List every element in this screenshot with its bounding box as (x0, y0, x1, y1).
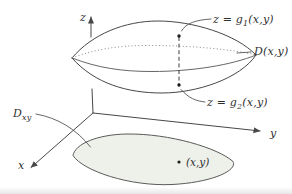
upper-surface-leader-line (182, 19, 212, 31)
lower-surface-label: z = g2(x,y) (206, 96, 268, 111)
lower-surface-point-dot (177, 83, 180, 86)
y-axis (93, 113, 260, 131)
xy-point-label: (x,y) (186, 156, 209, 168)
upper-surface-label-suffix: (x,y) (248, 13, 274, 26)
projection-region-label-sub: xy (22, 113, 32, 122)
y-axis-label: y (269, 127, 277, 140)
upper-surface-point-dot (177, 34, 180, 37)
diagram-canvas: z y x z = g1(x,y) D(x,y) z = g2(x,y) Dxy… (0, 0, 292, 194)
projection-region-dxy (73, 134, 234, 185)
equator-back-dotted-curve (72, 46, 256, 59)
upper-surface-label: z = g1(x,y) (212, 13, 274, 28)
column-region-leader-line (237, 52, 251, 53)
projection-leader-line (36, 114, 91, 147)
equator-front-curve (72, 55, 256, 72)
projection-region-label-base: D (12, 107, 22, 120)
ellipsoid-upper-arc (72, 21, 256, 58)
lower-surface-label-prefix: z = g (206, 96, 237, 109)
lower-surface-label-suffix: (x,y) (242, 96, 268, 109)
figure-solid-region-diagram: z y x z = g1(x,y) D(x,y) z = g2(x,y) Dxy… (0, 0, 292, 194)
column-region-label: D(x,y) (253, 45, 289, 58)
projection-region-label: Dxy (12, 107, 32, 122)
xy-point-dot (177, 160, 180, 163)
z-axis-lower-segment (92, 89, 93, 113)
ellipsoid-lower-arc (72, 55, 256, 93)
upper-surface-label-prefix: z = g (212, 13, 243, 26)
x-axis-label: x (18, 159, 25, 172)
z-axis-label: z (79, 11, 86, 24)
